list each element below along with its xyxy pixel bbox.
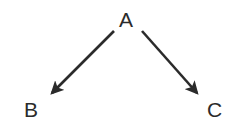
diagram-canvas: A B C — [0, 0, 242, 133]
node-label-a: A — [119, 9, 133, 30]
node-label-c: C — [207, 99, 222, 120]
edge-a-to-b — [52, 31, 114, 93]
edge-a-to-c — [142, 31, 197, 93]
node-label-b: B — [24, 99, 38, 120]
